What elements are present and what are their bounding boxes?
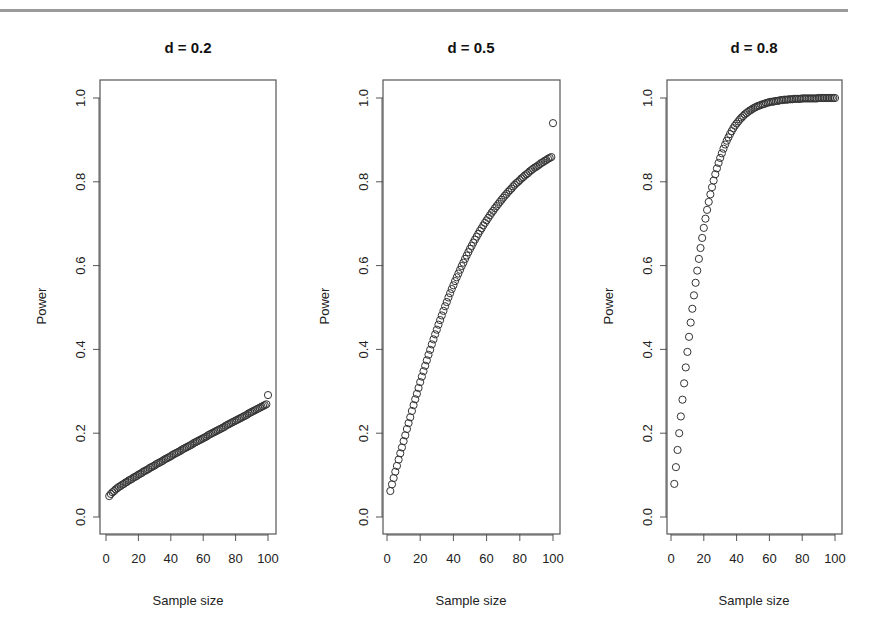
data-point [438, 312, 445, 319]
y-tick-label: 0.8 [640, 173, 655, 191]
data-point [430, 336, 437, 343]
data-point [433, 326, 440, 333]
data-point [708, 184, 715, 191]
y-axis: 0.00.20.40.60.81.0 [640, 89, 667, 526]
panel-title: d = 0.5 [447, 39, 494, 56]
y-tick-label: 0.8 [73, 173, 88, 191]
panel-d-0-2: d = 0.2 Sample size Power 0.00.20.40.60.… [34, 39, 279, 608]
data-point [717, 154, 724, 161]
x-tick-label: 100 [257, 551, 279, 566]
data-point [700, 224, 707, 231]
y-tick-label: 0.2 [356, 424, 371, 442]
data-points [106, 391, 272, 499]
panel-d-0-5: d = 0.5 Sample size Power 0.00.20.40.60.… [317, 39, 564, 608]
data-point [697, 244, 704, 251]
x-axis: 020406080100 [102, 534, 278, 566]
y-tick-label: 1.0 [356, 89, 371, 107]
y-tick-label: 0.4 [356, 340, 371, 358]
data-point [485, 214, 492, 221]
x-tick-label: 100 [542, 551, 564, 566]
plot-frame [383, 80, 560, 534]
y-axis-label: Power [317, 287, 332, 325]
data-point [694, 267, 701, 274]
data-point [720, 145, 727, 152]
data-points [387, 120, 557, 495]
y-axis-label: Power [34, 287, 49, 325]
y-tick-label: 0.0 [640, 508, 655, 526]
y-tick-label: 0.6 [356, 257, 371, 275]
y-tick-label: 0.8 [356, 173, 371, 191]
data-point [442, 303, 449, 310]
data-point [703, 206, 710, 213]
data-point [387, 487, 394, 494]
x-axis: 020406080100 [667, 534, 845, 566]
data-point [676, 430, 683, 437]
x-tick-label: 0 [383, 551, 390, 566]
x-tick-label: 80 [795, 551, 809, 566]
data-point [681, 380, 688, 387]
x-tick-label: 20 [131, 551, 145, 566]
data-point [689, 305, 696, 312]
data-point [677, 413, 684, 420]
y-tick-label: 0.6 [73, 257, 88, 275]
panel-title: d = 0.2 [164, 39, 211, 56]
data-point [682, 364, 689, 371]
data-point [692, 279, 699, 286]
plot-frame [667, 80, 842, 534]
data-point [707, 191, 714, 198]
x-axis-label: Sample size [436, 593, 507, 608]
data-point [481, 219, 488, 226]
x-tick-label: 40 [446, 551, 460, 566]
x-tick-label: 100 [824, 551, 846, 566]
y-tick-label: 0.2 [640, 424, 655, 442]
data-point [684, 348, 691, 355]
data-point [443, 298, 450, 305]
x-tick-label: 60 [479, 551, 493, 566]
data-point [685, 333, 692, 340]
data-point [695, 255, 702, 262]
x-axis-label: Sample size [719, 593, 790, 608]
data-points [671, 94, 839, 487]
y-axis-label: Power [601, 287, 616, 325]
y-tick-label: 0.0 [356, 508, 371, 526]
data-point [446, 290, 453, 297]
x-tick-label: 80 [228, 551, 242, 566]
y-tick-label: 1.0 [640, 89, 655, 107]
y-axis: 0.00.20.40.60.81.0 [73, 89, 100, 526]
y-axis: 0.00.20.40.60.81.0 [356, 89, 383, 526]
data-point [702, 215, 709, 222]
x-tick-label: 80 [513, 551, 527, 566]
data-point [699, 234, 706, 241]
data-point [483, 217, 490, 224]
data-point [687, 319, 694, 326]
data-point [264, 391, 271, 398]
x-tick-label: 60 [196, 551, 210, 566]
data-point [672, 464, 679, 471]
panel-d-0-8: d = 0.8 Sample size Power 0.00.20.40.60.… [601, 39, 846, 608]
figure: d = 0.2 Sample size Power 0.00.20.40.60.… [0, 0, 874, 640]
y-tick-label: 0.4 [640, 340, 655, 358]
panel-title: d = 0.8 [730, 39, 777, 56]
data-point [690, 292, 697, 299]
data-point [674, 446, 681, 453]
data-point [679, 396, 686, 403]
y-tick-label: 0.4 [73, 340, 88, 358]
x-tick-label: 20 [697, 551, 711, 566]
data-point [671, 480, 678, 487]
y-tick-label: 0.6 [640, 257, 655, 275]
data-point [432, 331, 439, 338]
data-point [549, 120, 556, 127]
x-axis-label: Sample size [153, 593, 224, 608]
data-point [440, 307, 447, 314]
y-tick-label: 1.0 [73, 89, 88, 107]
plot-frame [100, 80, 276, 534]
x-tick-label: 0 [667, 551, 674, 566]
data-point [437, 316, 444, 323]
x-tick-label: 60 [762, 551, 776, 566]
y-tick-label: 0.2 [73, 424, 88, 442]
data-point [718, 150, 725, 157]
data-point [435, 321, 442, 328]
data-point [705, 198, 712, 205]
y-tick-label: 0.0 [73, 508, 88, 526]
x-tick-label: 0 [102, 551, 109, 566]
